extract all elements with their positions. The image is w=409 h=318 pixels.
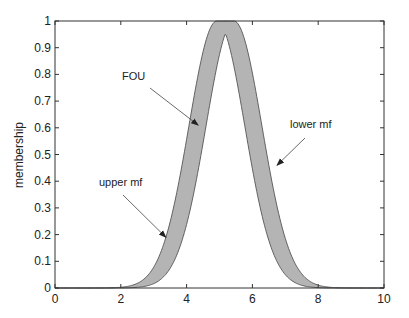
- y-tick-label: 0.3: [34, 201, 51, 215]
- annotation-lower-mf-arrow: [277, 138, 305, 165]
- y-tick-label: 1: [44, 14, 51, 28]
- annotation-fou-label: FOU: [122, 70, 145, 82]
- annotation-lower-mf-label: lower mf: [290, 118, 333, 130]
- lower-mf-line: [55, 34, 384, 288]
- x-tick-label: 6: [249, 292, 256, 306]
- y-tick-label: 0.4: [34, 174, 51, 188]
- annotation-upper-mf-label: upper mf: [99, 176, 143, 188]
- x-tick-label: 8: [315, 292, 322, 306]
- annotation-fou: FOU: [122, 70, 198, 125]
- annotation-upper-mf-arrow: [123, 195, 166, 237]
- x-tick-label: 10: [377, 292, 391, 306]
- y-tick-label: 0.9: [34, 41, 51, 55]
- x-tick-label: 2: [117, 292, 124, 306]
- y-tick-label: 0: [44, 281, 51, 295]
- y-tick-label: 0.5: [34, 148, 51, 162]
- y-tick-label: 0.6: [34, 121, 51, 135]
- x-axis-ticks: 0246810: [52, 21, 391, 306]
- x-tick-label: 4: [183, 292, 190, 306]
- annotation-lower-mf: lower mf: [277, 118, 332, 165]
- y-tick-label: 0.8: [34, 67, 51, 81]
- upper-mf-line: [55, 21, 384, 288]
- y-tick-label: 0.2: [34, 228, 51, 242]
- axes-box: [55, 21, 384, 288]
- y-tick-label: 0.7: [34, 94, 51, 108]
- membership-chart: 0246810 00.10.20.30.40.50.60.70.80.91 me…: [0, 0, 409, 318]
- annotation-upper-mf: upper mf: [99, 176, 166, 237]
- x-tick-label: 0: [52, 292, 59, 306]
- y-tick-label: 0.1: [34, 254, 51, 268]
- annotation-fou-arrow: [150, 88, 198, 125]
- fou-band: [55, 21, 384, 288]
- y-axis-label: membership: [12, 122, 26, 188]
